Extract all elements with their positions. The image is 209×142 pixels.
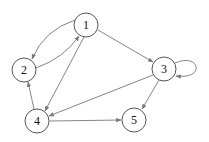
node-5-label: 5 <box>131 113 137 127</box>
node-4: 4 <box>25 109 49 133</box>
edge-4-to-5 <box>50 120 121 121</box>
edge-4-to-2 <box>28 82 34 109</box>
edge-1-to-4 <box>45 37 84 111</box>
node-2-label: 2 <box>21 63 27 77</box>
node-1: 1 <box>74 13 98 37</box>
edge-1-to-2 <box>32 20 75 59</box>
node-1-label: 1 <box>83 18 89 32</box>
edge-3-to-5 <box>142 80 159 109</box>
node-3: 3 <box>152 57 176 81</box>
node-5: 5 <box>122 108 146 132</box>
directed-graph: 1 2 3 4 5 <box>0 0 209 142</box>
edge-1-to-3 <box>98 30 153 62</box>
nodes: 1 2 3 4 5 <box>12 13 176 133</box>
edge-3-to-3-self-loop <box>175 60 196 76</box>
node-3-label: 3 <box>161 62 167 76</box>
node-4-label: 4 <box>34 114 40 128</box>
node-2: 2 <box>12 58 36 82</box>
